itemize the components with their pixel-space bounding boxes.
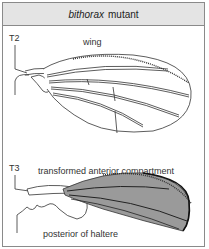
wing-diagram	[3, 3, 206, 248]
transformed-haltere-drawing	[15, 173, 191, 233]
figure-frame: bithorax mutant T2 wing T3 transformed a…	[2, 2, 205, 247]
wing-drawing	[15, 45, 191, 133]
